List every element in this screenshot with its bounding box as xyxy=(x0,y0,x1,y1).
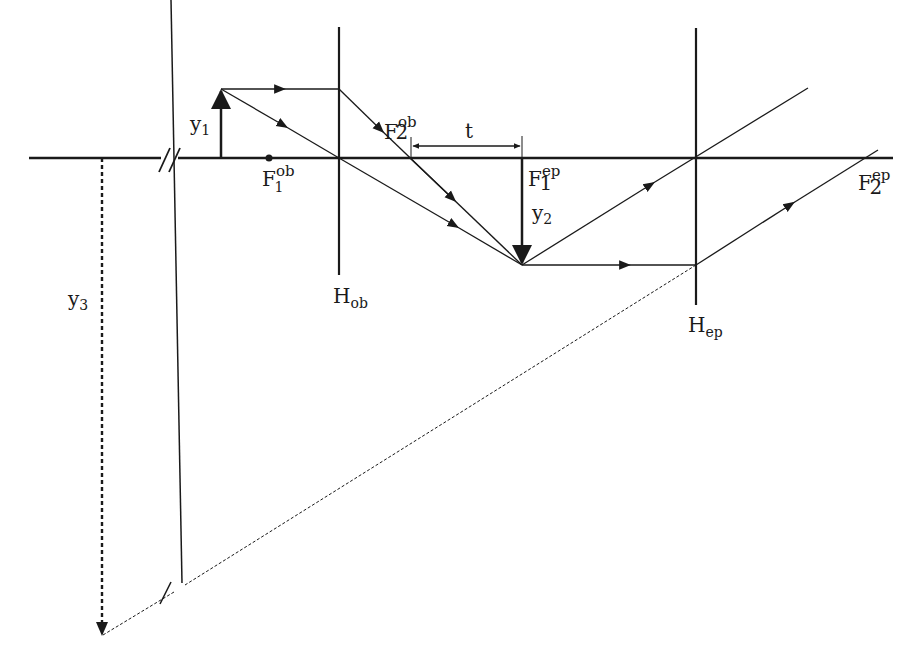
label-f1-ep: Fep1 xyxy=(528,162,560,195)
label-y3: y3 xyxy=(67,287,88,313)
virtual-ray-break-mark xyxy=(160,0,182,604)
virtual-ray-extension xyxy=(103,265,696,635)
label-t: t xyxy=(465,119,473,143)
label-f2-ep: Fep2 xyxy=(858,166,890,199)
focal-point-f1-ob xyxy=(266,155,273,162)
label-h-ob: Hob xyxy=(333,284,368,311)
optical-axis xyxy=(29,148,893,172)
label-h-ep: Hep xyxy=(688,313,723,340)
label-y2: y2 xyxy=(531,201,552,227)
label-f2-ob: Fob2 xyxy=(384,113,417,144)
axis-break-mark xyxy=(159,148,180,172)
label-y1: y1 xyxy=(189,112,210,138)
y3-arrowhead xyxy=(96,622,108,636)
eyepiece-rays xyxy=(522,88,878,265)
label-f1-ob: Fob1 xyxy=(262,162,295,195)
ray-diagram: y1 Fob1 Fob2 t Fep1 y2 Fep2 Hob Hep y3 xyxy=(0,0,924,667)
